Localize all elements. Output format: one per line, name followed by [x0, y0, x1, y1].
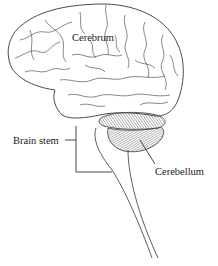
cerebrum-shape	[8, 4, 183, 118]
cerebellum-label: Cerebellum	[155, 167, 204, 178]
brain-stem-label: Brain stem	[13, 136, 59, 147]
cerebellum-shape	[99, 112, 165, 151]
cerebrum-label: Cerebrum	[72, 33, 114, 44]
brain-stem-bracket	[65, 126, 112, 172]
